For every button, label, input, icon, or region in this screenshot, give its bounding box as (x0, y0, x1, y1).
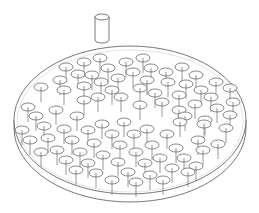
figure-canvas (0, 0, 259, 213)
pin-plate-drawing (0, 0, 259, 213)
cylinder-part (95, 14, 109, 43)
cylinder-top (95, 14, 109, 20)
cylinder-body (95, 17, 109, 43)
